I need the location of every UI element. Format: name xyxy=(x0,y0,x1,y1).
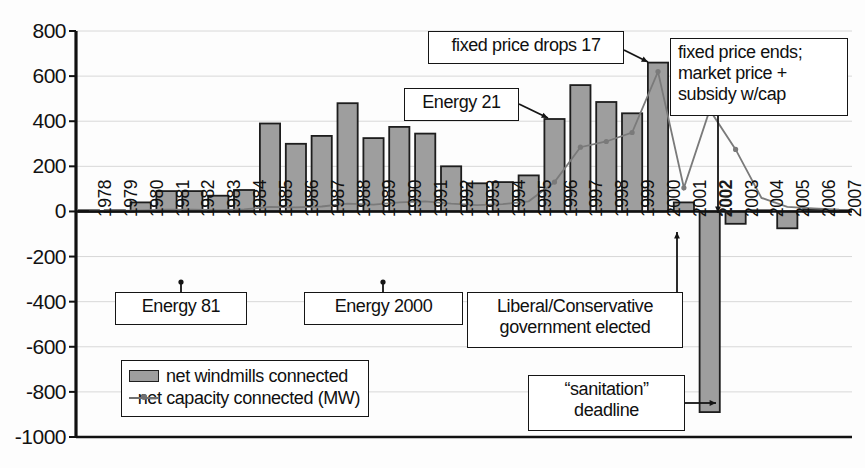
x-tick-label-2000: 2000 xyxy=(666,181,684,218)
x-tick-label-1994: 1994 xyxy=(511,181,529,218)
x-tick-label-1992: 1992 xyxy=(459,181,477,218)
y-tick-label: 0 xyxy=(4,200,66,221)
x-tick-label-1986: 1986 xyxy=(304,181,322,218)
x-tick-label-1987: 1987 xyxy=(330,181,348,218)
figure-caption xyxy=(36,446,826,466)
x-tick-label-1982: 1982 xyxy=(200,181,218,218)
x-tick-label-1996: 1996 xyxy=(563,181,581,218)
x-tick-label-2006: 2006 xyxy=(821,181,839,218)
x-tick-label-2003: 2003 xyxy=(744,181,762,218)
y-tick-label: -400 xyxy=(4,291,66,312)
x-tick-label-1984: 1984 xyxy=(252,181,270,218)
x-tick-label-2002: 2002 xyxy=(718,181,736,218)
line-marker-2003 xyxy=(733,147,738,152)
y-tick-label: -600 xyxy=(4,336,66,357)
y-tick-label: 800 xyxy=(4,20,66,41)
x-tick-label-1989: 1989 xyxy=(381,181,399,218)
chart-legend: net windmills connected net capacity con… xyxy=(121,360,369,417)
x-tick-label-1998: 1998 xyxy=(614,181,632,218)
callout-fixed-price-drops: fixed price drops 17 xyxy=(428,31,624,64)
x-tick-label-2004: 2004 xyxy=(769,181,787,218)
x-tick-label-1997: 1997 xyxy=(588,181,606,218)
y-tick-label: 600 xyxy=(4,65,66,86)
y-tick-label: -1000 xyxy=(4,426,66,447)
callout-government-elected: Liberal/Conservative government elected xyxy=(467,292,683,348)
callout-energy-21: Energy 21 xyxy=(404,88,519,121)
callout-sanitation-deadline: “sanitation” deadline xyxy=(528,375,685,431)
line-marker-1999 xyxy=(630,130,635,135)
line-marker-2000 xyxy=(655,69,660,74)
x-tick-label-1999: 1999 xyxy=(640,181,658,218)
y-tick-label: -200 xyxy=(4,246,66,267)
x-tick-label-1979: 1979 xyxy=(123,181,141,218)
line-marker-1998 xyxy=(604,139,609,144)
x-tick-label-1990: 1990 xyxy=(407,181,425,218)
x-tick-label-1981: 1981 xyxy=(175,181,193,218)
x-tick-label-2005: 2005 xyxy=(795,181,813,218)
line-marker-1997 xyxy=(578,145,583,150)
x-tick-label-1978: 1978 xyxy=(97,181,115,218)
bar-2002 xyxy=(700,211,720,412)
x-tick-label-1988: 1988 xyxy=(356,181,374,218)
x-tick-label-2001: 2001 xyxy=(692,181,710,218)
callout-energy-81: Energy 81 xyxy=(115,292,247,325)
legend-line-label: net capacity connected (MW) xyxy=(138,388,360,408)
legend-line-swatch xyxy=(129,392,131,404)
y-tick-label: 200 xyxy=(4,155,66,176)
x-tick-label-1995: 1995 xyxy=(537,181,555,218)
legend-bar-label: net windmills connected xyxy=(166,366,348,386)
legend-bar-swatch xyxy=(129,370,159,382)
legend-item-net-windmills: net windmills connected xyxy=(129,365,360,387)
x-tick-label-1985: 1985 xyxy=(278,181,296,218)
x-tick-label-2007: 2007 xyxy=(847,181,865,218)
x-tick-label-1980: 1980 xyxy=(149,181,167,218)
y-tick-label: -800 xyxy=(4,381,66,402)
x-tick-label-1991: 1991 xyxy=(433,181,451,218)
callout-energy-2000: Energy 2000 xyxy=(304,292,463,325)
x-tick-label-1993: 1993 xyxy=(485,181,503,218)
x-tick-label-1983: 1983 xyxy=(226,181,244,218)
callout-fixed-price-ends: fixed price ends; market price + subsidy… xyxy=(670,38,848,116)
y-tick-label: 400 xyxy=(4,110,66,131)
legend-item-net-capacity: net capacity connected (MW) xyxy=(129,387,360,409)
